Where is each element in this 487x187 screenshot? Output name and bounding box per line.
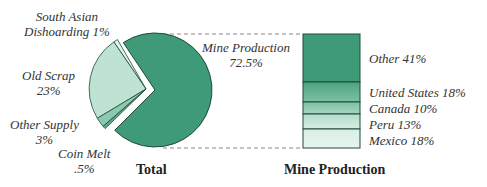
label-old-scrap: Old Scrap 23% xyxy=(22,68,75,98)
label-mine-production: Mine Production 72.5% xyxy=(202,40,290,70)
bar-segment-mexico xyxy=(303,129,360,148)
label-coin-melt: Coin Melt .5% xyxy=(58,146,110,176)
label-south-asian: South Asian Dishoarding 1% xyxy=(24,9,110,39)
label-coin-melt-pct: .5% xyxy=(58,161,110,176)
label-south-asian-line2: Dishoarding 1% xyxy=(24,24,110,39)
label-bar-peru: Peru 13% xyxy=(369,117,421,132)
label-bar-mexico: Mexico 18% xyxy=(369,133,434,148)
bar-segment-canada xyxy=(303,102,360,114)
label-coin-melt-name: Coin Melt xyxy=(58,146,110,161)
bar-segment-other xyxy=(303,34,360,82)
label-bar-other: Other 41% xyxy=(369,51,426,66)
label-old-scrap-name: Old Scrap xyxy=(22,68,75,83)
label-old-scrap-pct: 23% xyxy=(22,83,75,98)
pie-title: Total xyxy=(136,162,167,178)
label-mine-production-pct: 72.5% xyxy=(202,55,290,70)
bar-segment-peru xyxy=(303,114,360,129)
label-south-asian-line1: South Asian xyxy=(24,9,110,24)
label-bar-canada: Canada 10% xyxy=(369,101,437,116)
bar-title: Mine Production xyxy=(284,162,385,178)
label-mine-production-name: Mine Production xyxy=(202,40,290,55)
label-other-supply-pct: 3% xyxy=(10,132,79,147)
label-other-supply: Other Supply 3% xyxy=(10,117,79,147)
label-other-supply-name: Other Supply xyxy=(10,117,79,132)
bar-segment-united-states xyxy=(303,82,360,102)
label-bar-united-states: United States 18% xyxy=(369,85,466,100)
